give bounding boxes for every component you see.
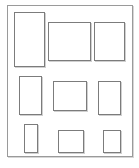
- box-r2-c2: [53, 81, 87, 111]
- box-r2-c1: [19, 76, 42, 115]
- box-r3-c3: [103, 130, 121, 153]
- box-r3-c1: [24, 124, 38, 153]
- box-r1-c3: [94, 22, 125, 61]
- box-r1-c1: [14, 12, 45, 67]
- box-r1-c2: [48, 22, 91, 61]
- box-r3-c2: [58, 130, 84, 153]
- box-r2-c3: [98, 81, 121, 115]
